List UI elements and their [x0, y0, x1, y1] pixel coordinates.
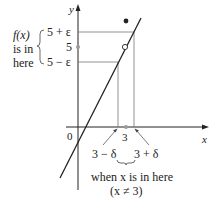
x-tick-left: 3 − δ: [92, 148, 116, 160]
x-axis-arrow-icon: [202, 125, 209, 130]
x-axis-label: x: [202, 133, 207, 145]
f-of-x-label: f(x): [13, 29, 30, 41]
filled-point: [124, 19, 129, 24]
y-tick-lower: 5 − ε: [47, 56, 71, 68]
epsilon-delta-graph: [0, 0, 213, 198]
left-brace-icon: [37, 30, 44, 64]
right-delta-pointer: [136, 130, 149, 145]
x-tick-right: 3 + δ: [134, 148, 158, 160]
x-tick-mid: 3: [122, 131, 128, 143]
y-tick-mid: 5: [66, 41, 72, 53]
x-not-equal-3-label: (x ≠ 3): [110, 185, 143, 197]
y-tick-upper: 5 + ε: [47, 26, 71, 38]
origin-label: 0: [67, 130, 73, 142]
y-axis-arrow-icon: [76, 4, 81, 11]
bottom-brace-icon: [117, 160, 135, 165]
left-delta-arrow-icon: [113, 129, 118, 133]
right-delta-arrow-icon: [135, 129, 140, 133]
y-tick-5-dot: [76, 45, 80, 49]
here-label: here: [13, 57, 34, 69]
y-axis-label: y: [69, 3, 74, 15]
when-x-in-here-label: when x is in here: [91, 171, 173, 183]
left-delta-pointer: [103, 130, 116, 145]
x-tick-3-dot: [124, 125, 128, 129]
is-in-label: is in: [13, 43, 33, 55]
hole-point: [122, 44, 127, 49]
